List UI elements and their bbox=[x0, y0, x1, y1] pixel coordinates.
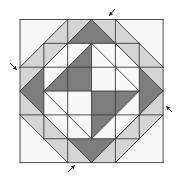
quilt-block-diagram bbox=[0, 0, 179, 181]
arrow-top-icon bbox=[109, 9, 115, 16]
arrow-left-icon bbox=[10, 63, 17, 70]
arrow-right-icon bbox=[166, 106, 172, 112]
arrow-bottom-icon bbox=[68, 165, 75, 172]
